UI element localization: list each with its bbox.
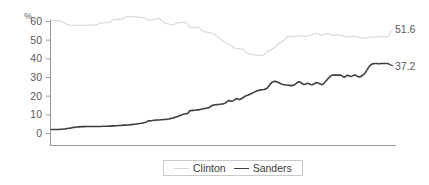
endpoint-leader-clinton <box>388 29 393 37</box>
chart-legend: Clinton Sanders <box>163 160 303 176</box>
y-axis-tick-label: 0 <box>16 128 42 138</box>
legend-item-clinton[interactable]: Clinton <box>174 163 226 174</box>
series-line-sanders <box>51 64 388 130</box>
series-lines <box>51 17 388 130</box>
chart-plot-area <box>0 0 429 185</box>
legend-label-sanders: Sanders <box>253 163 292 174</box>
endpoint-leader-sanders <box>388 64 393 66</box>
y-axis-tick-label: 50 <box>16 35 42 45</box>
y-axis-tick-label: 30 <box>16 72 42 82</box>
poll-average-line-chart: % 0102030405060 51.6 37.2 Clinton Sander… <box>0 0 429 185</box>
endpoint-connector-lines <box>388 29 393 66</box>
y-axis-tick-label: 10 <box>16 109 42 119</box>
legend-swatch-clinton-icon <box>174 168 189 169</box>
y-axis-tick-label: 40 <box>16 53 42 63</box>
series-line-clinton <box>51 17 388 56</box>
legend-item-sanders[interactable]: Sanders <box>234 163 292 174</box>
clinton-endpoint-value-label: 51.6 <box>395 24 415 34</box>
legend-label-clinton: Clinton <box>193 163 226 174</box>
legend-swatch-sanders-icon <box>234 168 249 169</box>
y-axis-tick-label: 60 <box>16 16 42 26</box>
y-axis-tick-label: 20 <box>16 91 42 101</box>
sanders-endpoint-value-label: 37.2 <box>395 61 415 71</box>
